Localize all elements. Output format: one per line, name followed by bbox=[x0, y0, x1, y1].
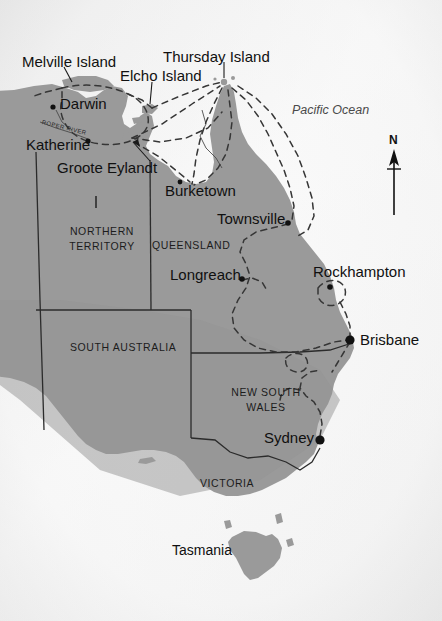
torres-islet-a bbox=[231, 76, 235, 80]
city-dot-darwin bbox=[50, 104, 55, 109]
city-dot-brisbane bbox=[345, 335, 354, 344]
city-dot-rockhampton bbox=[327, 284, 333, 290]
city-dot-townsville bbox=[285, 220, 291, 226]
thursday-island-shape bbox=[221, 79, 227, 85]
city-dot-katherine bbox=[85, 138, 90, 143]
city-dot-sydney bbox=[315, 435, 324, 444]
city-dot-burketown bbox=[178, 180, 183, 185]
map-container: Melville Island Elcho Island Thursday Is… bbox=[0, 0, 442, 621]
torres-islet-b bbox=[213, 77, 216, 80]
city-dot-longreach bbox=[239, 276, 245, 282]
australia-map-svg bbox=[0, 0, 442, 621]
